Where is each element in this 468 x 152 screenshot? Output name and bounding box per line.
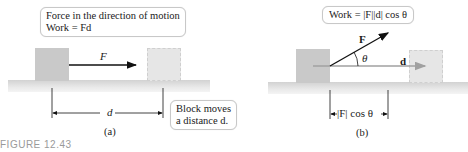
force-arrow-b xyxy=(330,33,388,66)
diagram-lines xyxy=(0,0,468,152)
angle-arc xyxy=(354,52,358,66)
